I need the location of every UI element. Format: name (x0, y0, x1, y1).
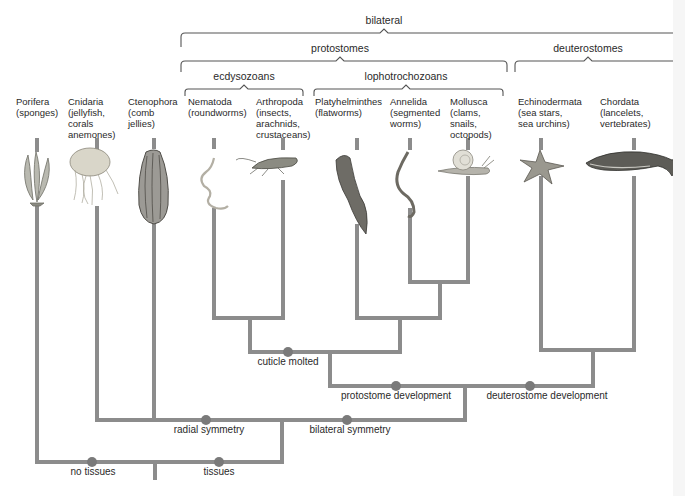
taxon-label-ctenophora: Ctenophora (comb jellies) (128, 96, 178, 129)
grasshopper-icon (236, 158, 297, 176)
character-label-cuticle-molted: cuticle molted (257, 356, 318, 367)
flatworm-icon (336, 155, 367, 234)
clade-label-deuterostomes: deuterostomes (553, 42, 622, 54)
page-edge (673, 0, 685, 496)
clade-label-lophotrochozoans: lophotrochozoans (365, 70, 448, 82)
character-label-no-tissues: no tissues (70, 466, 115, 477)
taxon-label-nematoda: Nematoda (roundworms) (188, 96, 247, 118)
taxon-label-cnidaria: Cnidaria (jellyfish, corals anemones) (68, 96, 116, 140)
taxon-label-annelida: Annelida (segmented worms) (390, 96, 440, 129)
clade-label-protostomes: protostomes (311, 42, 369, 54)
bracket-deuterostomes (515, 57, 677, 72)
clade-label-ecdysozoans: ecdysozoans (213, 70, 274, 82)
character-label-bilateral-symmetry: bilateral symmetry (309, 424, 390, 435)
taxon-label-echinodermata: Echinodermata (sea stars, sea urchins) (518, 96, 582, 129)
clade-label-bilateral: bilateral (366, 14, 403, 26)
taxon-label-platyhelminthes: Platyhelminthes (flatworms) (315, 96, 382, 118)
tree-branches (0, 0, 685, 496)
taxon-label-porifera: Porifera (sponges) (16, 96, 58, 118)
character-label-deuterostome-development: deuterostome development (486, 390, 607, 401)
whale-icon (586, 152, 683, 176)
phylogenetic-tree-diagram: bilateral protostomes deuterostomes ecdy… (0, 0, 685, 496)
comb-jelly-icon (139, 150, 169, 224)
sponge-icon (25, 152, 50, 206)
bracket-lophotrochozoans (314, 85, 503, 96)
taxon-label-arthropoda: Arthropoda (insects, arachnids, crustace… (256, 96, 310, 140)
taxon-label-mollusca: Mollusca (clams, snails, octopods) (450, 96, 492, 140)
snail-icon (438, 150, 494, 175)
roundworm-icon (201, 158, 228, 209)
character-label-radial-symmetry: radial symmetry (174, 424, 245, 435)
clade-brackets (181, 29, 677, 96)
character-label-tissues: tissues (203, 466, 234, 477)
character-label-protostome-development: protostome development (341, 390, 451, 401)
segmented-worm-icon (397, 152, 414, 217)
jellyfish-icon (70, 148, 118, 205)
bracket-ecdysozoans (185, 85, 303, 96)
taxon-label-chordata: Chordata (lancelets, vertebrates) (600, 96, 651, 129)
